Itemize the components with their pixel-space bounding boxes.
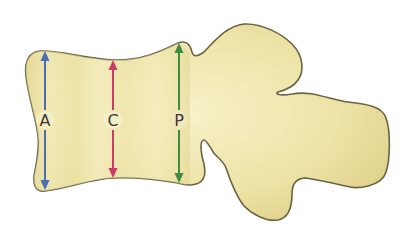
label-p: P <box>174 111 184 130</box>
vertebra-diagram: A C P <box>0 0 408 239</box>
label-a: A <box>40 111 51 130</box>
label-c: C <box>107 111 118 130</box>
